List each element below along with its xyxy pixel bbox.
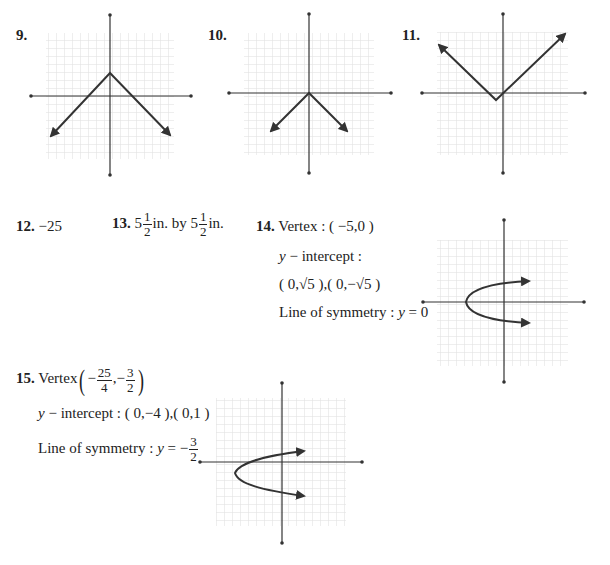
graph-15: [0, 0, 610, 565]
